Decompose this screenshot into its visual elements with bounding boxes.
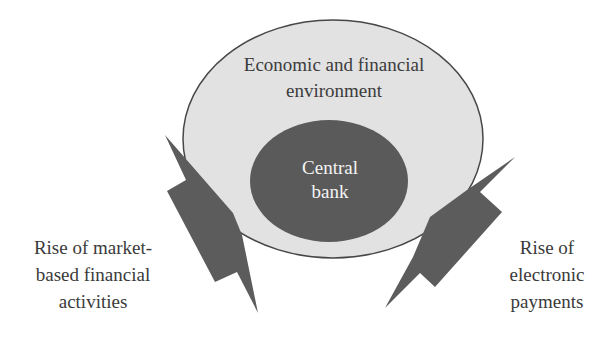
market-based-activities-label: Rise of market- based financial activiti… [18, 234, 168, 315]
economic-environment-label: Economic and financial environment [193, 52, 475, 104]
right-label-line-3: payments [495, 288, 599, 315]
outer-label-line-2: environment [193, 78, 475, 104]
inner-label-line-2: bank [270, 180, 390, 204]
right-label-line-2: electronic [495, 261, 599, 288]
right-label-line-1: Rise of [495, 234, 599, 261]
left-label-line-1: Rise of market- [18, 234, 168, 261]
inner-label-line-1: Central [270, 156, 390, 180]
left-label-line-2: based financial [18, 261, 168, 288]
central-bank-label: Central bank [270, 156, 390, 204]
outer-label-line-1: Economic and financial [193, 52, 475, 78]
left-label-line-3: activities [18, 288, 168, 315]
electronic-payments-label: Rise of electronic payments [495, 234, 599, 315]
